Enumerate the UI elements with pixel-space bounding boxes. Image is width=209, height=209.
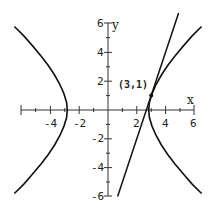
point-label: (3,1)	[118, 79, 148, 90]
y-tick-label: -2	[91, 132, 104, 145]
y-tick-label: -4	[91, 161, 105, 174]
tangent-point-marker	[149, 94, 153, 98]
y-tick-label: 2	[97, 75, 104, 88]
y-tick-label: -6	[91, 190, 104, 203]
chart: -4 -2 2 4 6 6 4 2 -2 -4 -6 x y (3,1)	[0, 0, 209, 209]
tangent-line	[118, 13, 179, 196]
x-tick-label: 6	[190, 117, 197, 130]
x-tick-label: 2	[133, 117, 140, 130]
y-tick-label: 6	[97, 17, 104, 30]
y-axis-label: y	[111, 18, 119, 32]
x-tick-label: 4	[162, 117, 169, 130]
x-tick-label: -4	[44, 117, 58, 130]
x-tick-label: -2	[73, 117, 86, 130]
x-axis-label: x	[187, 93, 194, 107]
y-tick-label: 4	[97, 46, 104, 59]
